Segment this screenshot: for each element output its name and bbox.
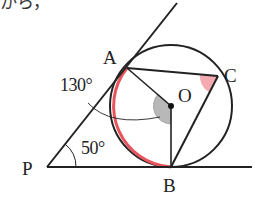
chord-ac	[127, 68, 218, 76]
leader-line-130	[88, 103, 160, 120]
geometry-figure: から， A C O P B 130° 50°	[0, 0, 255, 199]
header-text: から，	[0, 0, 50, 11]
angle-p-arc	[65, 144, 76, 167]
label-point-a: A	[103, 48, 117, 67]
radius-oa	[127, 68, 171, 106]
label-angle-50: 50°	[81, 139, 105, 157]
label-point-o: O	[178, 86, 192, 105]
label-point-p: P	[22, 159, 33, 178]
center-point-o	[168, 103, 174, 109]
label-angle-130: 130°	[60, 76, 92, 94]
label-point-c: C	[224, 66, 237, 85]
diagram-canvas	[0, 0, 255, 199]
label-point-b: B	[163, 176, 176, 195]
